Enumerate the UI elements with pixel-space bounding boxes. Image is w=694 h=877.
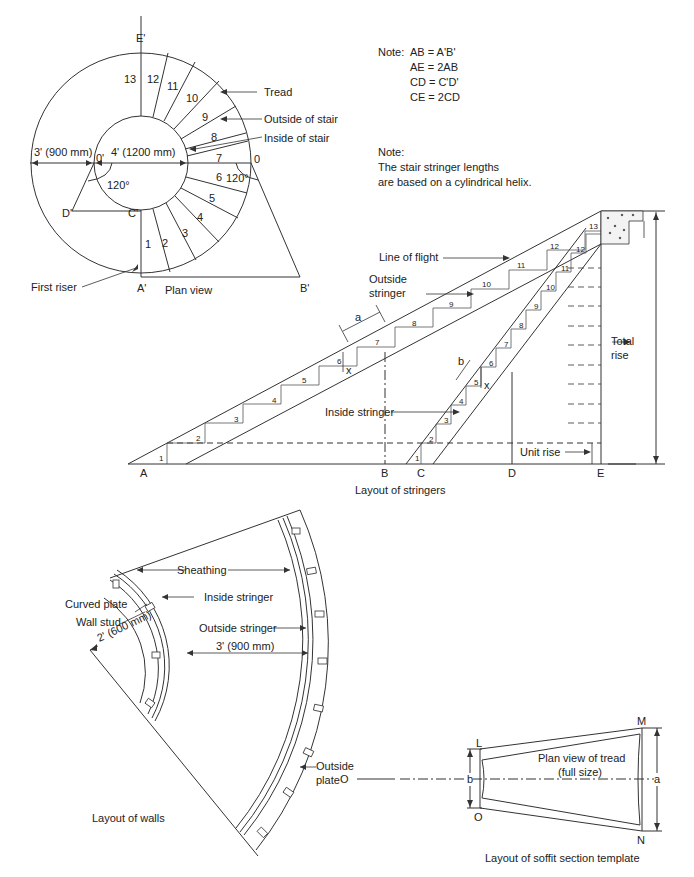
label-o-centerline: O xyxy=(340,773,349,786)
soffit-caption: Layout of soffit section template xyxy=(485,852,640,864)
point-n: N xyxy=(637,834,645,847)
label-a: a xyxy=(654,773,660,786)
point-m: M xyxy=(637,715,646,728)
stair-drawing-sheet: E' 0' 0 D' C' A' B' 3' (900 mm) 4' (1200… xyxy=(0,0,694,877)
point-o: O xyxy=(474,811,483,824)
label-full-size: (full size) xyxy=(558,766,602,779)
label-b: b xyxy=(467,773,473,786)
soffit-template-drawing xyxy=(0,0,694,877)
label-plan-view-of-tread: Plan view of tread xyxy=(538,752,625,765)
point-l: L xyxy=(476,737,482,750)
